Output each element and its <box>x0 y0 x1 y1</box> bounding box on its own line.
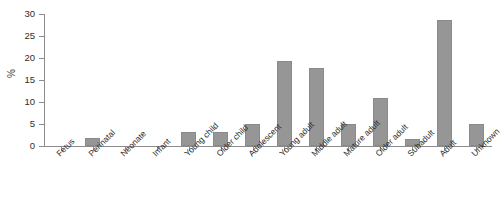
y-axis-tick-label: 15 <box>15 75 35 85</box>
y-axis-tick-label: 30 <box>15 9 35 19</box>
y-axis-tick-label: 5 <box>15 119 35 129</box>
bar <box>437 20 452 146</box>
x-axis-line <box>44 146 492 147</box>
y-axis-tick-label: 20 <box>15 53 35 63</box>
y-axis-tick-label: 25 <box>15 31 35 41</box>
bar <box>277 61 292 146</box>
y-axis-tick <box>39 146 45 147</box>
bar <box>309 68 324 146</box>
y-axis-tick-label: 0 <box>15 141 35 151</box>
y-axis-tick-label: 10 <box>15 97 35 107</box>
plot-area <box>45 14 492 146</box>
